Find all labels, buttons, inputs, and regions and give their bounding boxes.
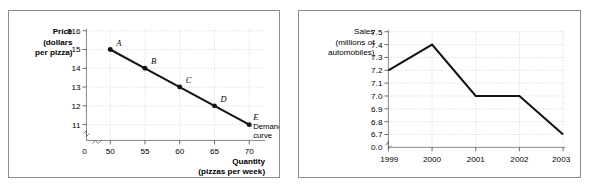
xtick-label-2000: 2000: [423, 155, 442, 164]
xtick-label-55: 55: [140, 147, 150, 156]
panel-demand-curve: Price (dollars per pizza): [8, 10, 280, 178]
ytick-label-6-9: 6.9: [371, 105, 383, 114]
xtick-label-60: 60: [175, 147, 185, 156]
ytick-label-6-8: 6.8: [371, 118, 383, 127]
y-axis-break-icon: [83, 131, 89, 137]
point-label-b: B: [151, 56, 156, 66]
ytick-label-7-2: 7.2: [371, 66, 383, 75]
point-label-d: D: [219, 94, 227, 104]
ytick-label-11: 11: [72, 121, 81, 130]
data-point-e: [247, 122, 252, 127]
demand-curve-annotation-line1: Demand: [253, 122, 279, 131]
data-point-d: [212, 103, 217, 108]
xtick-label-2001: 2001: [467, 155, 486, 164]
demand-curve-annotation-line2: curve: [253, 131, 272, 140]
point-label-e: E: [252, 112, 259, 122]
data-point-b: [143, 66, 148, 71]
y-axis-label-sales-sub2: automobiles): [328, 48, 375, 57]
ytick-label-7-3: 7.3: [371, 53, 383, 62]
xtick-label-0: 0: [82, 147, 87, 156]
y-axis-label-price-sub2: per pizza): [35, 48, 73, 57]
point-label-c: C: [186, 75, 192, 85]
ytick-label-16: $16: [67, 27, 81, 36]
panel-auto-sales: Sales (millions of automobiles): [298, 10, 581, 178]
ytick-label-14: 14: [71, 64, 81, 73]
xtick-label-1999: 1999: [380, 155, 399, 164]
ytick-label-7-4: 7.4: [371, 41, 383, 50]
data-point-c: [177, 85, 182, 90]
ytick-label-7-5: 7.5: [371, 28, 383, 37]
ytick-label-12: 12: [71, 102, 81, 111]
demand-curve-chart: Price (dollars per pizza): [9, 11, 279, 177]
ytick-label-6-7: 6.7: [371, 130, 383, 139]
ytick-label-7-1: 7.1: [371, 79, 383, 88]
ytick-label-0-0: 0.0: [371, 143, 383, 152]
y-axis-label-sales-sub1: (millions of: [336, 38, 376, 47]
xtick-label-2002: 2002: [510, 155, 529, 164]
ytick-label-7-0: 7.0: [371, 92, 383, 101]
xtick-label-70: 70: [245, 147, 255, 156]
xtick-label-2003: 2003: [552, 155, 571, 164]
xtick-label-50: 50: [106, 147, 116, 156]
xtick-label-65: 65: [210, 147, 220, 156]
ytick-label-15: 15: [71, 46, 81, 55]
x-axis-label-quantity: Quantity: [232, 157, 265, 166]
x-axis-label-quantity-sub: (pizzas per week): [198, 167, 265, 176]
data-point-a: [108, 47, 113, 52]
auto-sales-chart: Sales (millions of automobiles): [299, 11, 580, 177]
figure-root: Price (dollars per pizza): [0, 0, 589, 187]
y-axis-label-price-sub1: (dollars: [43, 38, 73, 47]
point-label-a: A: [115, 38, 122, 48]
ytick-label-13: 13: [71, 83, 81, 92]
